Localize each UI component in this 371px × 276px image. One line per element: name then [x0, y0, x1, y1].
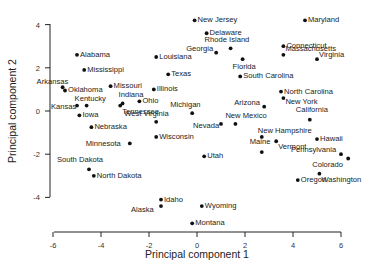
data-point [229, 46, 233, 50]
point-label: Idaho [164, 195, 183, 204]
data-point [296, 178, 300, 182]
data-point [92, 174, 96, 178]
data-point [193, 18, 197, 22]
point-label: Colorado [312, 160, 343, 169]
point-label: Kansas [51, 102, 77, 111]
data-point [279, 90, 283, 94]
data-points: AlabamaMississippiArkansasOklahomaMissou… [37, 15, 362, 227]
x-tick-label: -6 [50, 241, 57, 250]
point-label: Wyoming [205, 201, 237, 210]
data-point [234, 122, 238, 126]
data-point [87, 167, 91, 171]
data-point [152, 88, 156, 92]
point-label: Michigan [170, 100, 200, 109]
point-label: Alabama [80, 50, 111, 59]
point-label: North Dakota [97, 171, 143, 180]
point-label: Ohio [142, 96, 158, 105]
point-label: Pennsylvania [291, 145, 337, 154]
data-point [262, 105, 266, 109]
data-point [238, 75, 242, 79]
y-tick-label: -2 [33, 150, 40, 159]
data-point [219, 122, 223, 126]
data-point [166, 72, 170, 76]
point-label: South Dakota [57, 155, 104, 164]
data-point [159, 204, 163, 208]
point-label: West Virginia [124, 109, 169, 118]
data-point [75, 53, 79, 57]
point-label: Missouri [114, 81, 143, 90]
point-label: New Hampshire [258, 126, 312, 135]
data-point [90, 125, 94, 129]
data-point [346, 157, 350, 161]
data-point [63, 89, 67, 93]
data-point [303, 18, 307, 22]
point-label: Wisconsin [159, 132, 194, 141]
data-point [78, 113, 82, 117]
point-label: Oregon [301, 175, 326, 184]
data-point [339, 152, 343, 156]
data-point [308, 118, 312, 122]
point-label: Hawaii [320, 134, 343, 143]
data-point [109, 84, 113, 88]
data-point [154, 55, 158, 59]
point-label: Illinois [157, 84, 178, 93]
point-label: Iowa [82, 110, 99, 119]
point-label: Mississippi [87, 65, 124, 74]
point-label: New Mexico [225, 111, 266, 120]
y-tick-label: -4 [33, 193, 40, 202]
x-tick-label: 4 [291, 241, 295, 250]
point-label: Florida [233, 62, 257, 71]
data-point [282, 53, 286, 57]
x-tick-label: -4 [98, 241, 105, 250]
data-point [202, 154, 206, 158]
point-label: Texas [171, 69, 191, 78]
y-tick-label: 2 [36, 64, 40, 73]
data-point [138, 99, 142, 103]
point-label: Washington [321, 175, 361, 184]
point-label: South Carolina [243, 71, 294, 80]
point-label: Utah [207, 151, 223, 160]
data-point [159, 198, 163, 202]
data-point [315, 137, 319, 141]
data-point [190, 111, 194, 115]
point-label: Louisiana [159, 52, 192, 61]
x-axis-title: Principal component 1 [145, 248, 249, 260]
point-label: Kentucky [75, 94, 106, 103]
y-tick-label: 4 [36, 21, 40, 30]
point-label: Virginia [319, 50, 345, 59]
y-tick-label: 0 [36, 107, 40, 116]
point-label: Nevada [193, 121, 220, 130]
data-point [154, 120, 158, 124]
x-tick-label: 6 [339, 241, 343, 250]
point-label: Georgia [186, 44, 214, 53]
point-label: Nebraska [94, 122, 127, 131]
data-point [200, 204, 204, 208]
data-point [241, 57, 245, 61]
data-point [82, 68, 86, 72]
point-label: Minnesota [86, 139, 122, 148]
data-point [190, 221, 194, 225]
point-label: Rhode Island [205, 35, 250, 44]
point-label: North Carolina [284, 87, 334, 96]
y-axis-title: Principal component 2 [6, 59, 18, 163]
point-label: Arizona [234, 98, 261, 107]
point-label: Maine [250, 137, 271, 146]
point-label: California [296, 105, 329, 114]
point-label: Indiana [119, 90, 145, 99]
data-point [214, 51, 218, 55]
y-axis: -4-2024 [33, 21, 50, 203]
point-label: Maryland [308, 15, 339, 24]
data-point [85, 104, 89, 108]
data-point [154, 135, 158, 139]
point-label: Alaska [131, 205, 155, 214]
data-point [128, 142, 132, 146]
data-point [260, 150, 264, 154]
point-label: New Jersey [198, 15, 238, 24]
scatter-plot: -4-2024 -6-4-20246 Principal component 1… [0, 0, 371, 276]
point-label: Montana [195, 218, 225, 227]
point-label: Arkansas [37, 77, 69, 86]
